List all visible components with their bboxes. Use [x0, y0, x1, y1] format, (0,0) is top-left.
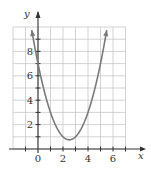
- x-tick-label: 4: [85, 153, 91, 164]
- x-tick-label: 2: [60, 153, 66, 164]
- curve-end-arrows: [30, 30, 108, 36]
- parabola-chart: 02462468 x y: [0, 0, 151, 172]
- curve-arrow-icon: [30, 30, 35, 36]
- parabola-curve: [32, 30, 107, 140]
- y-tick-label: 8: [27, 46, 33, 57]
- y-tick-label: 2: [27, 119, 33, 130]
- x-tick-label: 6: [110, 153, 116, 164]
- y-axis-label: y: [23, 8, 30, 19]
- x-tick-label: 0: [35, 153, 41, 164]
- x-axis-label: x: [138, 150, 144, 161]
- curve-arrow-icon: [103, 30, 108, 36]
- y-tick-label: 4: [27, 95, 33, 106]
- y-axis-arrow-icon: [36, 11, 41, 18]
- y-tick-label: 6: [27, 70, 33, 81]
